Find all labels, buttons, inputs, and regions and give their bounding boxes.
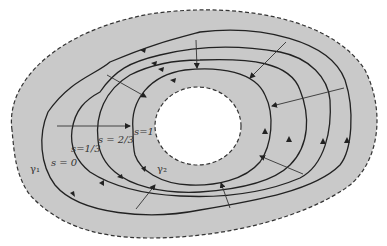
- label-s-1: s=1: [134, 126, 154, 137]
- label-s-one-third: s=1/3: [71, 143, 101, 154]
- homotopy-diagram: γ₁ γ₂ s = 0 s=1/3 s = 2/3 s=1: [0, 0, 387, 246]
- label-s-two-thirds: s = 2/3: [98, 134, 134, 145]
- label-gamma2: γ₂: [157, 163, 167, 174]
- inner-boundary-hole: [155, 87, 241, 165]
- label-s-0: s = 0: [51, 157, 78, 168]
- diagram-canvas: γ₁ γ₂ s = 0 s=1/3 s = 2/3 s=1: [0, 0, 387, 246]
- label-gamma1: γ₁: [30, 163, 40, 174]
